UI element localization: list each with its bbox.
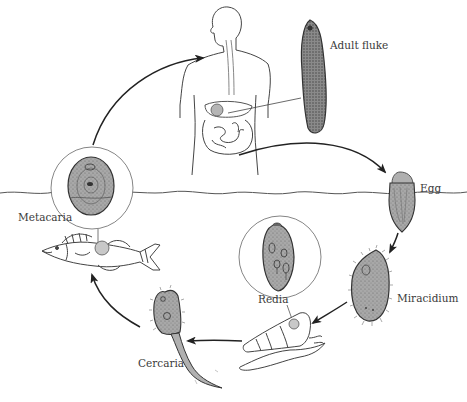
egg-icon — [389, 172, 415, 232]
label-cercaria: Cercaria — [138, 358, 184, 369]
snail-host-icon — [239, 313, 325, 371]
snail-infection-marker — [289, 319, 299, 329]
arrow-egg-to-miracidium — [390, 233, 398, 252]
arrow-snail-to-cercaria — [188, 340, 242, 341]
life-cycle-diagram: Adult fluke Egg Miracidium Redia Cercari… — [0, 0, 467, 402]
adult-fluke-icon — [301, 20, 326, 133]
cercaria-icon — [149, 285, 222, 388]
label-redia: Redia — [258, 294, 288, 305]
liver-fluke-location-marker — [211, 104, 223, 116]
arrow-cercaria-to-fish — [92, 275, 140, 327]
fish-infection-marker — [95, 241, 109, 255]
redia-inset-icon — [239, 216, 321, 298]
arrow-fish-to-human — [93, 58, 203, 145]
diagram-artwork — [0, 0, 467, 402]
label-egg: Egg — [420, 183, 441, 194]
arrow-miracidium-to-snail — [313, 302, 347, 323]
label-metacaria: Metacaria — [18, 212, 72, 223]
arrow-human-to-egg — [239, 143, 385, 172]
label-miracidium: Miracidium — [397, 293, 458, 304]
label-adult-fluke: Adult fluke — [330, 40, 388, 51]
miracidium-icon — [348, 245, 393, 326]
